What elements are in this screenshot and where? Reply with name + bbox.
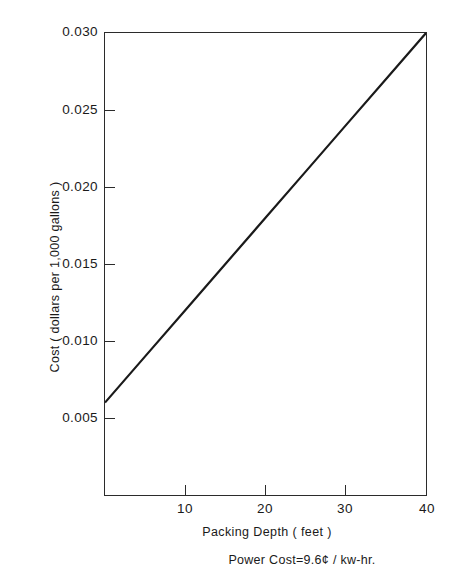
x-tick-label-holder-20: 20	[235, 502, 295, 518]
x-tick-label-holder-10: 10	[155, 502, 215, 518]
x-tick-label: 10	[155, 502, 215, 516]
y-tick-label-holder-0025: 0.025	[14, 103, 98, 117]
x-tick-30	[345, 485, 346, 496]
y-tick-label: 0.030	[18, 25, 98, 39]
y-tick-0005	[104, 418, 115, 419]
x-tick-label: 30	[315, 502, 375, 516]
x-tick-label-holder-40: 40	[397, 502, 457, 518]
x-tick-10	[185, 485, 186, 496]
y-tick-label: 0.025	[18, 103, 98, 117]
y-axis: 0.030 0.025 0.020 0.015 0.010 0.005	[0, 0, 457, 580]
y-axis-title: Cost ( dollars per 1,000 gallons )	[48, 127, 62, 427]
power-cost-annotation: Power Cost=9.6¢ / kw-hr.	[157, 553, 447, 567]
y-tick-0020	[104, 187, 115, 188]
x-axis-title: Packing Depth ( feet )	[117, 525, 417, 539]
x-tick-label: 20	[235, 502, 295, 516]
chart-figure: 0.030 0.025 0.020 0.015 0.010 0.005 10 2…	[0, 0, 457, 580]
y-tick-0015	[104, 264, 115, 265]
y-tick-0025	[104, 110, 115, 111]
x-tick-20	[265, 485, 266, 496]
x-tick-label: 40	[397, 502, 457, 516]
y-tick-label-holder-0030: 0.030	[14, 25, 98, 39]
x-tick-label-holder-30: 30	[315, 502, 375, 518]
y-tick-0010	[104, 341, 115, 342]
